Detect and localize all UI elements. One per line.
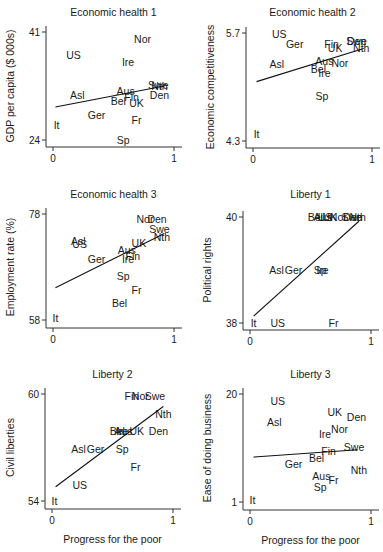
x-tick-label: 1 — [171, 334, 177, 345]
panel-title: Liberty 2 — [92, 368, 132, 380]
point-label: Fr — [131, 461, 141, 473]
point-label: Ger — [286, 38, 304, 50]
panel-title: Economic health 1 — [70, 6, 157, 18]
point-label: Ire — [318, 67, 330, 79]
point-label: Sp — [117, 270, 130, 282]
y-axis-label: Ease of doing business — [201, 394, 213, 503]
y-tick-label: 4.3 — [226, 136, 240, 147]
point-label: Ger — [88, 109, 106, 121]
point-label: Bel — [112, 297, 127, 309]
small-multiples-scatter: Economic health 1412401GDP per capita ($… — [0, 0, 383, 552]
y-tick-label: 24 — [29, 135, 41, 146]
y-axis-label: Economic competitiveness — [204, 25, 216, 149]
y-tick-label: 41 — [29, 27, 41, 38]
point-label: Ire — [122, 56, 134, 68]
panel-title: Economic health 3 — [70, 188, 157, 200]
point-label: Ger — [88, 253, 106, 265]
point-label: Swe — [145, 390, 166, 402]
point-label: UK — [328, 42, 343, 54]
point-label: Nth — [155, 408, 172, 420]
point-label: Asl — [270, 58, 285, 70]
x-tick-label: 1 — [170, 515, 176, 526]
x-tick-label: 0 — [247, 516, 253, 527]
y-tick-label: 58 — [29, 315, 41, 326]
point-label: Asl — [71, 443, 86, 455]
point-label: Nth — [350, 211, 367, 223]
point-label: Nor — [331, 57, 348, 69]
point-label: UK — [129, 97, 144, 109]
x-tick-label: 1 — [368, 516, 374, 527]
point-label: Fr — [132, 284, 142, 296]
panel-6: Liberty 320101Ease of doing businessProg… — [201, 368, 379, 546]
panel-4: Liberty 1403801Political rightsBelAusUSU… — [201, 188, 379, 347]
y-tick-label: 20 — [226, 389, 238, 400]
point-label: Den — [347, 411, 366, 423]
point-label: Ire — [319, 428, 331, 440]
y-axis-label: GDP per capita ($ 000s) — [4, 29, 16, 142]
point-label: It — [51, 495, 57, 507]
x-axis-label: Progress for the poor — [261, 534, 360, 546]
point-label: Fr — [329, 317, 339, 329]
point-label: Bel — [309, 452, 324, 464]
point-label: It — [249, 494, 255, 506]
point-label: Nth — [351, 464, 368, 476]
panel-1: Economic health 1412401GDP per capita ($… — [4, 6, 182, 164]
point-label: Ger — [87, 443, 105, 455]
point-label: US — [272, 28, 287, 40]
y-axis-label: Political rights — [201, 238, 213, 303]
y-tick-label: 60 — [28, 389, 40, 400]
point-label: Den — [150, 89, 169, 101]
point-label: Asl — [269, 264, 284, 276]
point-label: It — [254, 128, 260, 140]
x-tick-label: 1 — [171, 153, 177, 164]
panel-2: Economic health 25.74.301Economic compet… — [204, 6, 380, 165]
y-tick-label: 40 — [226, 212, 238, 223]
point-label: Bel — [111, 95, 126, 107]
point-label: Swe — [344, 441, 365, 453]
point-label: US — [73, 479, 88, 491]
panel-title: Liberty 1 — [290, 188, 330, 200]
point-label: Ire — [316, 264, 328, 276]
y-tick-label: 38 — [226, 318, 238, 329]
point-label: Sp — [117, 134, 130, 146]
point-label: US — [72, 238, 87, 250]
point-label: Nor — [134, 33, 151, 45]
x-tick-label: 0 — [49, 515, 55, 526]
point-label: Sp — [314, 481, 327, 493]
y-tick-label: 54 — [28, 496, 40, 507]
y-axis-label: Employment rate (%) — [4, 218, 16, 317]
y-tick-label: 78 — [29, 209, 41, 220]
panel-title: Liberty 3 — [290, 368, 330, 380]
point-label: Asl — [267, 416, 282, 428]
point-label: Nth — [353, 42, 370, 54]
point-label: UK — [327, 406, 342, 418]
x-tick-label: 0 — [250, 154, 256, 165]
point-label: US — [271, 395, 286, 407]
x-tick-label: 0 — [50, 334, 56, 345]
point-label: UK — [129, 425, 144, 437]
x-tick-label: 1 — [369, 154, 375, 165]
point-label: Fr — [329, 474, 339, 486]
panel-3: Economic health 3785801Employment rate (… — [4, 188, 182, 345]
point-label: US — [66, 49, 81, 61]
y-tick-label: 5.7 — [226, 28, 240, 39]
point-label: Ire — [116, 425, 128, 437]
point-label: Den — [149, 425, 168, 437]
point-label: It — [52, 312, 58, 324]
point-label: Sp — [116, 443, 129, 455]
regression-line — [254, 450, 358, 457]
point-label: Nor — [331, 423, 348, 435]
y-axis-label: Civil liberties — [4, 418, 16, 477]
point-label: It — [54, 119, 60, 131]
point-label: Asl — [70, 89, 85, 101]
x-tick-label: 1 — [368, 336, 374, 347]
point-label: It — [251, 317, 257, 329]
panel-5: Liberty 2605401Civil libertiesProgress f… — [4, 368, 181, 545]
x-tick-label: 0 — [50, 153, 56, 164]
point-label: Sp — [316, 90, 329, 102]
panel-title: Economic health 2 — [269, 6, 356, 18]
x-tick-label: 0 — [247, 336, 253, 347]
y-tick-label: 1 — [231, 497, 237, 508]
point-label: Ger — [285, 458, 303, 470]
x-axis-label: Progress for the poor — [63, 533, 162, 545]
